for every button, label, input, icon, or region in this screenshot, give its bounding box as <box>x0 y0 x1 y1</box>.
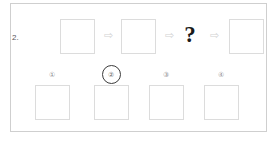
selection-ring-icon <box>102 65 121 84</box>
screenshot-root: 2. ⇨⇨?⇨ ①②③④ <box>0 0 274 144</box>
sequence-tile-1-box <box>60 19 95 54</box>
sequence-row: ⇨⇨?⇨ <box>11 19 268 59</box>
option-1-box[interactable] <box>35 85 70 120</box>
option-2[interactable]: ② <box>91 68 131 120</box>
option-1[interactable]: ① <box>32 68 72 120</box>
question-mark-placeholder: ? <box>182 22 198 48</box>
puzzle-panel: 2. ⇨⇨?⇨ ①②③④ <box>10 3 267 132</box>
sequence-tile-2 <box>121 19 156 54</box>
option-4-box[interactable] <box>204 85 239 120</box>
option-4-number[interactable]: ④ <box>215 68 228 81</box>
option-3[interactable]: ③ <box>146 68 186 120</box>
options-row: ①②③④ <box>11 68 268 126</box>
sequence-tile-3-box <box>229 19 264 54</box>
option-3-number[interactable]: ③ <box>160 68 173 81</box>
sequence-tile-1 <box>60 19 95 54</box>
option-3-box[interactable] <box>149 85 184 120</box>
sequence-tile-3 <box>229 19 264 54</box>
right-arrow-icon: ⇨ <box>101 30 115 41</box>
option-4[interactable]: ④ <box>201 68 241 120</box>
option-2-box[interactable] <box>94 85 129 120</box>
sequence-tile-2-box <box>121 19 156 54</box>
option-2-number[interactable]: ② <box>105 68 118 81</box>
right-arrow-icon: ⇨ <box>162 30 176 41</box>
right-arrow-icon: ⇨ <box>207 30 221 41</box>
option-1-number[interactable]: ① <box>46 68 59 81</box>
